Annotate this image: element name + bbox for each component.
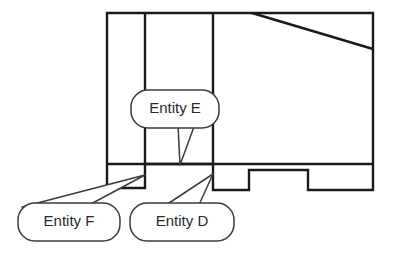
callout-entity-f[interactable]: Entity F [18,175,145,241]
callout-entity-e-tail [178,124,195,165]
internal-edge-group [107,13,373,164]
diagram-canvas: Entity E Entity F Entity D [0,0,402,263]
diagram-svg: Entity E Entity F Entity D [0,0,402,263]
callout-entity-e-label: Entity E [149,99,201,116]
callout-entity-d-label: Entity D [156,212,209,229]
callout-entity-f-tail [22,175,145,207]
edge-chamfer-diagonal [252,13,373,49]
callout-entity-f-label: Entity F [44,212,95,229]
callout-entity-d-tail [166,174,213,207]
